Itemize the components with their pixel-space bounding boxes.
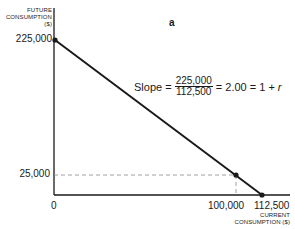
x-tick-0: 0 xyxy=(51,200,57,211)
y-tick-25000: 25,000 xyxy=(19,168,50,179)
point-112500 xyxy=(259,192,264,197)
y-axis-title: FUTURE CONSUMPTION ($) xyxy=(6,7,52,28)
y-axis-title-line3: ($) xyxy=(6,21,52,28)
slope-variable-r: r xyxy=(278,81,282,93)
y-axis-title-line1: FUTURE xyxy=(6,7,52,14)
budget-line xyxy=(55,40,262,195)
slope-denominator: 112,500 xyxy=(175,87,212,97)
x-tick-112500: 112,500 xyxy=(254,200,289,211)
slope-prefix: Slope = xyxy=(134,81,172,93)
x-tick-100000: 100,000 xyxy=(208,200,244,211)
x-axis-title: CURRENT CONSUMPTION ($) xyxy=(235,212,291,226)
x-axis-title-line2: CONSUMPTION ($) xyxy=(235,219,291,226)
y-tick-225000: 225,000 xyxy=(16,33,52,44)
x-axis-title-line1: CURRENT xyxy=(235,212,291,219)
slope-annotation: Slope = 225,000 112,500 = 2.00 = 1 + r xyxy=(134,76,281,97)
slope-fraction: 225,000 112,500 xyxy=(175,76,213,97)
slope-suffix: = 2.00 = 1 + xyxy=(216,81,275,93)
point-225000 xyxy=(52,37,57,42)
point-100000-25000 xyxy=(233,172,238,177)
panel-label: a xyxy=(169,17,175,28)
y-axis-title-line2: CONSUMPTION xyxy=(6,14,52,21)
